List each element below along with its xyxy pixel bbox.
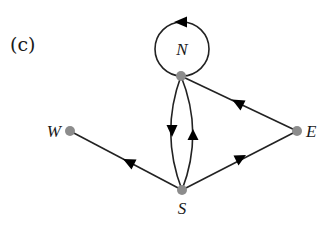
arrowhead-S-N-icon: [188, 129, 199, 140]
node-E: [292, 126, 302, 136]
directed-graph-diagram: (c) N W E S: [0, 0, 334, 230]
node-label-E: E: [305, 122, 317, 141]
arrowhead-N-S-icon: [167, 125, 178, 137]
panel-label: (c): [10, 33, 35, 55]
arrowhead-S-E-icon: [234, 155, 247, 166]
edge-S-to-N: [181, 76, 193, 190]
node-N: [176, 71, 186, 81]
node-label-S: S: [178, 199, 187, 218]
node-S: [177, 185, 187, 195]
arrowhead-N-N-icon: [174, 17, 187, 28]
node-W: [65, 126, 75, 136]
node-label-N: N: [175, 40, 189, 59]
node-label-W: W: [47, 122, 63, 141]
